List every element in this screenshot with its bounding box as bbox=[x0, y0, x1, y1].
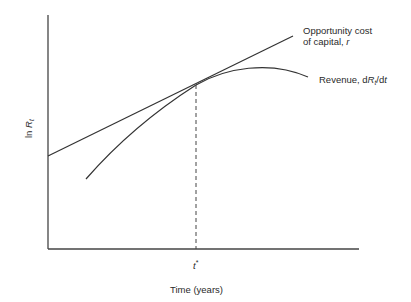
y-axis-label: ln Rt bbox=[23, 119, 37, 138]
label-sup: * bbox=[196, 259, 199, 266]
diagram-figure: Opportunity cost of capital, r Revenue, … bbox=[0, 0, 411, 302]
opportunity-cost-label: Opportunity cost of capital, r bbox=[303, 25, 372, 47]
opportunity-cost-label-line1: Opportunity cost bbox=[303, 25, 372, 36]
opportunity-cost-label-line2: of capital, r bbox=[303, 36, 372, 47]
revenue-label: Revenue, dRt/dt bbox=[319, 74, 387, 88]
label-text: Revenue, d bbox=[319, 74, 368, 85]
label-sub: t bbox=[28, 119, 35, 121]
revenue-curve bbox=[86, 68, 308, 179]
t-star-label: t* bbox=[193, 257, 198, 271]
label-var: R bbox=[23, 121, 34, 128]
label-text: of capital, bbox=[303, 36, 346, 47]
x-axis-label: Time (years) bbox=[170, 284, 223, 295]
opportunity-cost-line bbox=[48, 36, 293, 156]
label-text: ln bbox=[23, 128, 34, 138]
label-var: t bbox=[384, 74, 387, 85]
label-var: r bbox=[346, 36, 349, 47]
